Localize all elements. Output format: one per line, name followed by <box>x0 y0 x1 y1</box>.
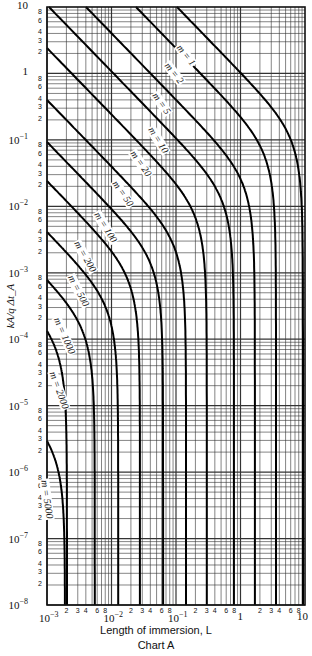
y-minor-tick-label: 6 <box>38 415 42 422</box>
y-minor-tick-label: 6 <box>38 216 42 223</box>
y-tick-label: 10−2 <box>0 198 28 212</box>
x-minor-tick-label: 6 <box>224 607 228 614</box>
y-minor-tick-label: 4 <box>38 228 42 235</box>
x-minor-tick-label: 4 <box>277 607 281 614</box>
x-tick-label: 10−1 <box>168 610 188 624</box>
y-minor-tick-label: 2 <box>38 314 42 321</box>
y-minor-tick-label: 8 <box>38 407 42 414</box>
y-minor-tick-label: 8 <box>38 75 42 82</box>
y-tick-label: 10 <box>0 0 28 11</box>
x-tick-label: 10 <box>297 610 308 622</box>
x-minor-tick-label: 4 <box>84 607 88 614</box>
y-minor-tick-label: 3 <box>38 103 42 110</box>
y-minor-tick-label: 4 <box>38 161 42 168</box>
y-minor-tick-label: 8 <box>38 274 42 281</box>
y-minor-tick-label: 8 <box>38 208 42 215</box>
y-minor-tick-label: 8 <box>38 540 42 547</box>
x-minor-tick-label: 4 <box>148 607 152 614</box>
y-minor-tick-label: 3 <box>38 369 42 376</box>
x-minor-tick-label: 4 <box>213 607 217 614</box>
y-minor-tick-label: 8 <box>38 141 42 148</box>
y-minor-tick-label: 2 <box>38 248 42 255</box>
x-minor-tick-label: 2 <box>129 607 133 614</box>
y-minor-tick-label: 4 <box>38 95 42 102</box>
y-minor-tick-label: 2 <box>38 381 42 388</box>
x-minor-tick-label: 2 <box>64 607 68 614</box>
y-minor-tick-label: 3 <box>38 435 42 442</box>
y-minor-tick-label: 4 <box>38 427 42 434</box>
chart-caption: Chart A <box>0 639 312 651</box>
x-minor-tick-label: 3 <box>76 607 80 614</box>
y-minor-tick-label: 3 <box>38 170 42 177</box>
y-minor-tick-label: 2 <box>38 580 42 587</box>
y-minor-tick-label: 3 <box>38 37 42 44</box>
x-minor-tick-label: 3 <box>205 607 209 614</box>
y-minor-tick-label: 6 <box>38 83 42 90</box>
curve-m1000 <box>47 280 95 605</box>
y-minor-tick-label: 6 <box>38 548 42 555</box>
y-minor-tick-label: 6 <box>38 349 42 356</box>
y-tick-label: 10−5 <box>0 398 28 412</box>
x-minor-tick-label: 6 <box>95 607 99 614</box>
y-minor-tick-label: 3 <box>38 236 42 243</box>
y-minor-tick-label: 6 <box>38 17 42 24</box>
x-minor-tick-label: 2 <box>258 607 262 614</box>
y-axis-title: kA/q Δt_A <box>4 284 16 329</box>
y-minor-tick-label: 3 <box>38 568 42 575</box>
y-minor-tick-label: 4 <box>38 294 42 301</box>
y-minor-tick-label: 2 <box>38 181 42 188</box>
y-tick-label: 10−3 <box>0 265 28 279</box>
y-tick-label: 1 <box>0 65 28 77</box>
y-tick-label: 10−7 <box>0 531 28 545</box>
y-minor-tick-label: 3 <box>38 303 42 310</box>
y-minor-tick-label: 6 <box>38 150 42 157</box>
x-minor-tick-label: 2 <box>193 607 197 614</box>
x-tick-label: 1 <box>238 610 244 622</box>
x-tick-label: 10−3 <box>39 610 59 624</box>
x-axis-title: Length of immersion, L <box>0 624 312 636</box>
x-tick-label: 10−2 <box>104 610 124 624</box>
x-minor-tick-label: 8 <box>232 607 236 614</box>
curve-m5000 <box>47 441 65 605</box>
y-axis-title-text: kA/q Δt_A <box>4 284 16 329</box>
x-minor-tick-label: 3 <box>140 607 144 614</box>
y-tick-label: 10−8 <box>0 597 28 611</box>
x-minor-tick-label: 3 <box>269 607 273 614</box>
y-minor-tick-label: 6 <box>38 283 42 290</box>
x-minor-tick-label: 6 <box>289 607 293 614</box>
y-minor-tick-label: 2 <box>38 447 42 454</box>
y-tick-label: 10−4 <box>0 331 28 345</box>
y-minor-tick-label: 2 <box>38 48 42 55</box>
y-minor-tick-label: 2 <box>38 115 42 122</box>
x-minor-tick-label: 6 <box>160 607 164 614</box>
y-minor-tick-label: 4 <box>38 28 42 35</box>
y-tick-label: 10−1 <box>0 132 28 146</box>
y-minor-tick-label: 8 <box>38 341 42 348</box>
y-minor-tick-label: 8 <box>38 8 42 15</box>
y-minor-tick-label: 4 <box>38 560 42 567</box>
curve-m20 <box>47 48 207 605</box>
y-tick-label: 10−6 <box>0 464 28 478</box>
y-minor-tick-label: 2 <box>38 514 42 521</box>
y-minor-tick-label: 4 <box>38 361 42 368</box>
